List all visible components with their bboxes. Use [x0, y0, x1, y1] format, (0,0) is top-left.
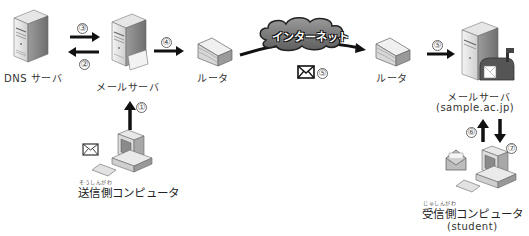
step-5-badge: ⑤: [432, 40, 443, 51]
router-left-icon: [198, 38, 232, 66]
envelope-icon-sender: [83, 144, 98, 155]
sender-mail-server-label: メールサーバ: [96, 79, 159, 94]
step-2-badge: ②: [79, 59, 90, 70]
open-envelope-icon-receiver: [446, 150, 466, 170]
step-1-badge: ①: [136, 102, 147, 113]
step-7-badge: ⑦: [506, 143, 517, 154]
step-4-badge: ④: [161, 37, 172, 48]
dns-server-label: DNS サーバ: [4, 70, 62, 85]
sender-mail-server-icon: [112, 14, 148, 70]
dns-server-icon: [14, 10, 48, 62]
step-5-internet-badge: ⑤: [317, 68, 328, 79]
router-left-label: ルータ: [197, 70, 229, 85]
router-right-label: ルータ: [376, 70, 408, 85]
receiver-mail-server-icon: [462, 22, 514, 80]
receiver-computer-user: (student): [447, 221, 498, 232]
sender-computer-icon: [92, 130, 152, 176]
internet-label: インターネット: [272, 28, 349, 44]
receiver-mail-server-domain: (sample.ac.jp): [436, 102, 514, 113]
router-right-icon: [376, 38, 410, 66]
sender-computer-label: 送信側コンピュータ: [78, 184, 180, 200]
receiver-computer-label: 受信側コンピュータ: [422, 205, 524, 221]
envelope-icon-internet: [298, 66, 314, 78]
step-6-badge: ⑥: [466, 127, 477, 138]
step-3-badge: ③: [77, 23, 88, 34]
